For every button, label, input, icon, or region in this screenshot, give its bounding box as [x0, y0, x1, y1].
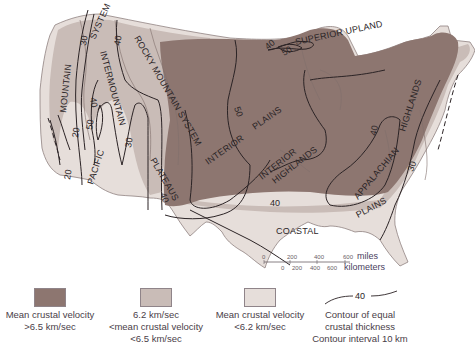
region-high-velocity: [160, 28, 458, 206]
legend-text: Mean crustal velocity: [0, 309, 100, 321]
contour-sample-icon: 40: [323, 288, 398, 306]
svg-text:400: 400: [314, 254, 325, 260]
swatch-high-velocity: [34, 288, 66, 307]
legend-text: Contour interval 10 km: [300, 333, 420, 345]
svg-text:miles: miles: [357, 251, 379, 261]
legend-text: Mean crustal velocity: [210, 309, 310, 321]
svg-text:20: 20: [70, 127, 82, 139]
svg-text:20: 20: [62, 169, 74, 181]
swatch-low-velocity: [244, 288, 276, 307]
legend-text: <6.5 km/sec: [100, 333, 212, 345]
svg-text:40: 40: [112, 35, 124, 47]
svg-text:50: 50: [84, 119, 96, 131]
svg-text:40: 40: [355, 291, 365, 301]
legend-text: <mean crustal velocity: [100, 321, 212, 333]
svg-text:40: 40: [88, 97, 100, 109]
svg-text:40: 40: [270, 198, 280, 208]
legend-item-low-velocity: Mean crustal velocity <6.2 km/sec: [210, 288, 310, 333]
svg-text:600: 600: [327, 265, 338, 271]
legend-text: Contour of equal: [300, 309, 420, 321]
legend-item-high-velocity: Mean crustal velocity >6.5 km/sec: [0, 288, 100, 333]
swatch-mid-velocity: [140, 288, 172, 307]
scale-bar: 0 200 400 600 miles 0 200 400 600 kilome…: [262, 251, 386, 272]
legend-text: <6.2 km/sec: [210, 321, 310, 333]
svg-text:0: 0: [281, 265, 285, 271]
legend: Mean crustal velocity >6.5 km/sec 6.2 km…: [0, 288, 475, 351]
svg-text:COASTAL: COASTAL: [276, 226, 319, 236]
crustal-map: MOUNTAIN SYSTEM PACIFIC INTERMOUNTAIN RO…: [0, 0, 475, 290]
svg-text:kilometers: kilometers: [344, 262, 386, 272]
legend-item-mid-velocity: 6.2 km/sec <mean crustal velocity <6.5 k…: [100, 288, 212, 345]
legend-text: crustal thickness: [300, 321, 420, 333]
svg-text:40: 40: [368, 125, 380, 137]
svg-text:200: 200: [287, 254, 298, 260]
legend-text: >6.5 km/sec: [0, 321, 100, 333]
svg-text:600: 600: [343, 254, 354, 260]
svg-text:30: 30: [123, 137, 135, 149]
svg-text:400: 400: [310, 265, 321, 271]
svg-text:200: 200: [292, 265, 303, 271]
legend-item-contour: 40 Contour of equal crustal thickness Co…: [300, 288, 420, 345]
svg-text:30: 30: [78, 35, 90, 47]
legend-text: 6.2 km/sec: [100, 309, 212, 321]
